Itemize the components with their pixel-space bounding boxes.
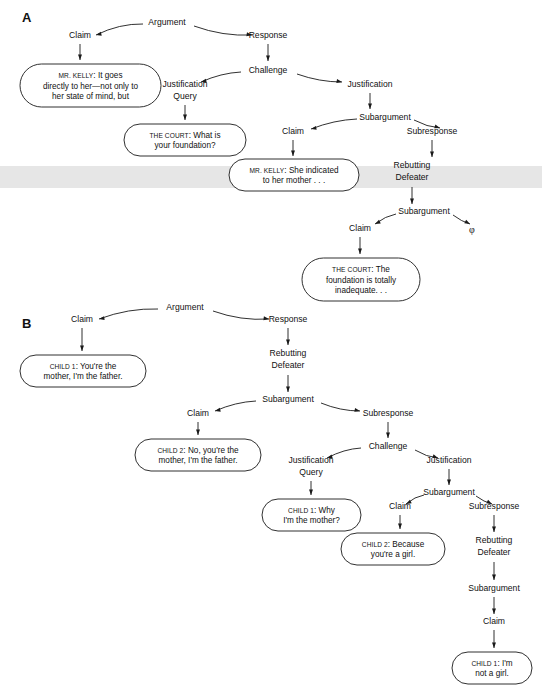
node-a-rebutting-2: Defeater [396,172,429,182]
arrowhead-icon [492,575,496,580]
edge [311,119,357,130]
node-a-claim-3: Claim [349,223,371,233]
speech-bubble: CHILD 2: No, you're themother, I'm the f… [135,439,261,471]
arrowhead-icon [358,249,362,254]
arrowhead-icon [99,316,105,320]
speech-bubble-outline [135,439,261,471]
speech-bubble: THE COURT: What isyour foundation? [124,124,246,156]
speech-bubble: CHILD 1: You're themother, I'm the fathe… [20,355,146,387]
speech-bubble: CHILD 1: I'mnot a girl. [452,652,532,684]
node-b-response: Response [269,314,308,324]
edge [492,562,496,580]
speech-bubble-line: to her mother . . . [263,176,325,185]
node-a-subargument-2: Subargument [398,206,450,216]
edge [286,328,290,345]
edge [196,422,200,435]
arrowhead-icon [80,346,84,351]
edge [492,597,496,614]
node-b-justification-query-1: Justification [289,455,334,465]
edge [99,309,158,320]
edge-line [321,403,360,411]
arrowhead-icon [386,433,390,438]
argument-diagram: ArgumentClaimResponseChallengeJustificat… [0,0,542,697]
speech-bubble-line: inadequate. . . [335,286,387,295]
arrowhead-icon [78,55,82,60]
node-b-subresponse: Subresponse [363,408,414,418]
arrowhead-icon [96,32,102,36]
edge-line [297,74,342,82]
arrowhead-icon [286,340,290,345]
edge [410,187,414,204]
edge-line [194,26,252,35]
speech-bubble-line: foundation is totally [326,276,397,285]
speech-bubble-line: MR. KELLY: It goes [59,71,123,80]
node-a-claim: Claim [69,30,91,40]
node-b-argument: Argument [166,302,204,312]
speech-bubble-line: not a girl. [475,669,509,678]
edge [453,215,470,224]
edge-line [311,119,357,129]
edge [78,44,82,60]
edge-line [96,24,143,35]
speech-bubble: MR. KELLY: It goesdirectly to her—not on… [20,64,161,107]
arrowhead-icon [492,527,496,532]
node-b-justification: Justification [427,455,472,465]
speech-bubble-line: her state of mind, but [52,92,130,101]
speech-bubble-line: MR. KELLY: She indicated [249,166,338,175]
arrowhead-icon [309,490,313,495]
edge [492,630,496,648]
arrowhead-icon [311,126,317,130]
panel-labels-layer: AB [22,10,32,331]
speech-bubble-outline [341,533,445,565]
arrowhead-icon [183,115,187,120]
edge [297,74,342,83]
node-a-justification-query-2: Query [173,91,197,101]
edge [309,481,313,495]
node-b-claim-2: Claim [187,408,209,418]
speech-bubble-line: THE COURT: The [332,265,390,274]
node-b-subargument-3: Subargument [468,583,520,593]
speech-bubble-outline [452,652,532,684]
edge [321,403,360,412]
bubbles-layer: MR. KELLY: It goesdirectly to her—not on… [20,64,532,684]
arrowhead-icon [492,609,496,614]
nodes-layer: ArgumentClaimResponseChallengeJustificat… [69,17,520,626]
node-a-rebutting-1: Rebutting [394,160,431,170]
node-b-subargument: Subargument [262,394,314,404]
speech-bubble-line: directly to her—not only to [43,82,139,91]
speech-bubble-outline [124,124,246,156]
node-b-claim-3: Claim [389,501,411,511]
node-b-claim-4: Claim [483,616,505,626]
speech-bubble: THE COURT: Thefoundation is totallyinade… [302,258,420,301]
edge [80,328,84,351]
speech-bubble-line: you're a girl. [371,550,415,559]
edge [492,515,496,532]
arrowhead-icon [266,56,270,61]
arrowhead-icon [368,104,372,109]
arrowhead-icon [398,524,402,529]
phi-empty-symbol: φ [469,224,475,235]
edge [358,237,362,254]
node-b-claim: Claim [71,314,93,324]
node-a-response: Response [249,30,288,40]
node-a-subargument: Subargument [359,112,411,122]
node-a-challenge: Challenge [249,65,288,75]
edge [286,375,290,392]
edge [183,105,187,120]
speech-bubble: CHILD 1: WhyI'm the mother? [262,499,361,531]
node-b-subresponse-2: Subresponse [469,501,520,511]
panel-a-label: A [22,10,32,25]
edge [194,26,252,36]
node-a-justification: Justification [348,79,393,89]
node-a-argument: Argument [148,17,186,27]
edge-line [99,309,158,319]
figure-canvas: ArgumentClaimResponseChallengeJustificat… [0,0,542,697]
edge [430,140,434,157]
node-b-justification-query-2: Query [299,467,323,477]
node-b-rebutting-3: Rebutting [476,535,513,545]
edge-line [215,401,256,411]
panel-b-label: B [22,316,31,331]
speech-bubble: CHILD 2: Becauseyou're a girl. [341,533,445,565]
edge [215,401,256,412]
node-b-rebutting-4: Defeater [478,547,511,557]
